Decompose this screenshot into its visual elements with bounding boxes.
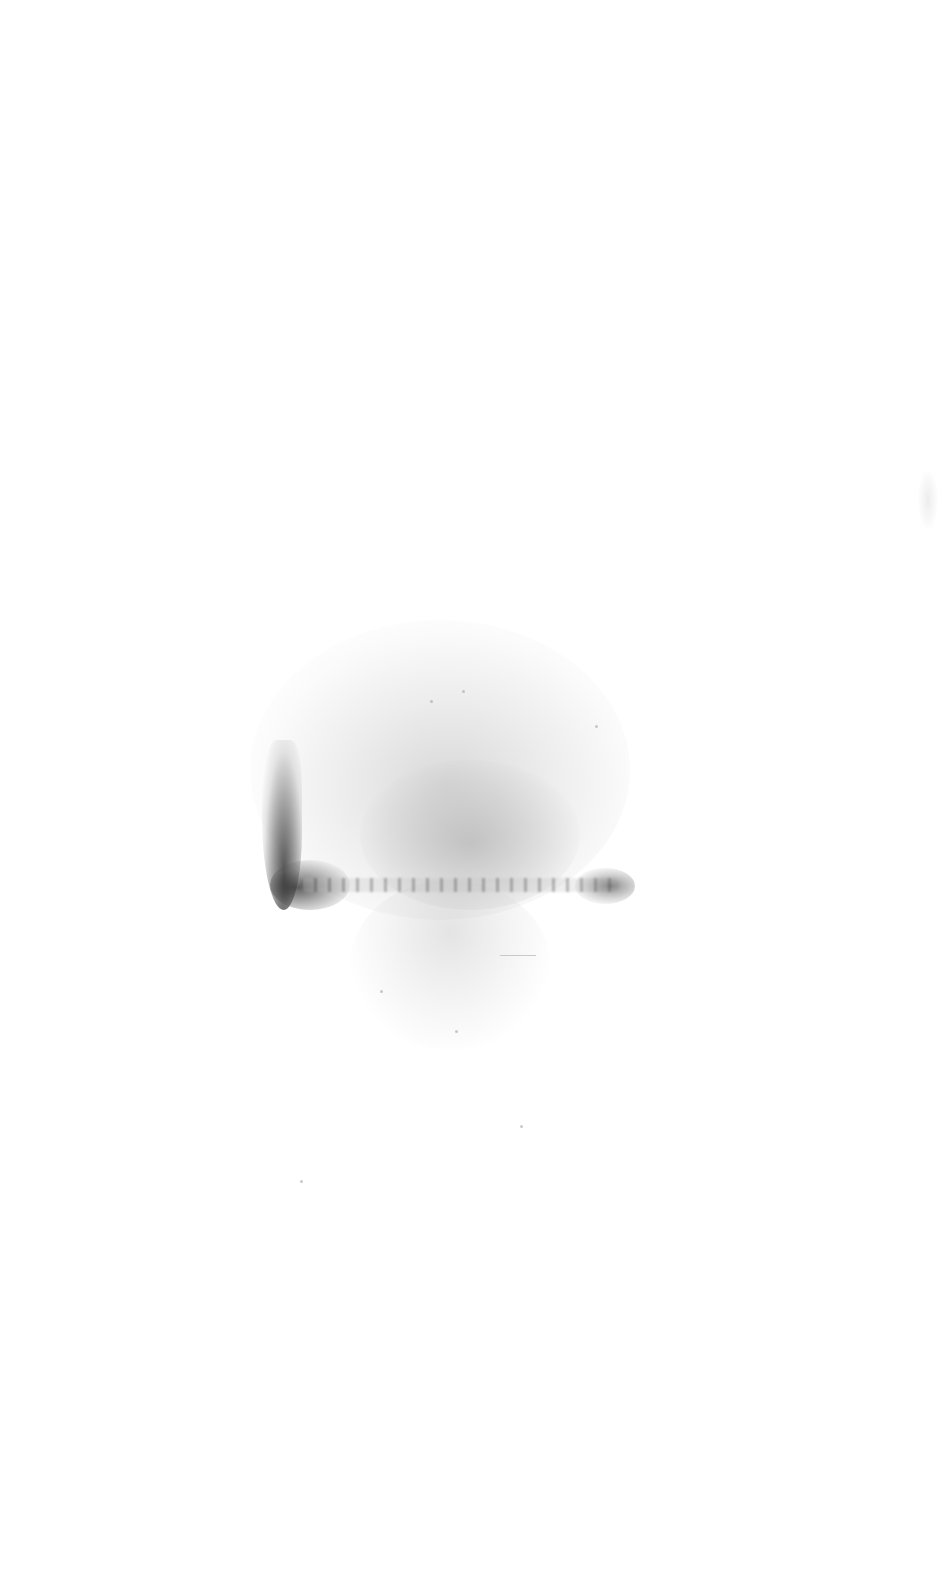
stain-trail	[300, 878, 620, 892]
stain-core	[360, 760, 580, 910]
speck	[430, 700, 433, 703]
stain-cloud	[250, 620, 630, 920]
stain-faint-right	[918, 470, 938, 530]
stain-dark-corner	[270, 860, 350, 910]
speck	[300, 1180, 303, 1183]
stain-plume	[350, 880, 550, 1050]
speck	[520, 1125, 523, 1128]
speck	[455, 1030, 458, 1033]
speck-line	[500, 955, 536, 956]
blank-page	[0, 0, 941, 1577]
stain-dark-edge	[262, 740, 302, 910]
speck	[595, 725, 598, 728]
speck	[462, 690, 465, 693]
speck	[380, 990, 383, 993]
stain-tip	[575, 868, 635, 904]
